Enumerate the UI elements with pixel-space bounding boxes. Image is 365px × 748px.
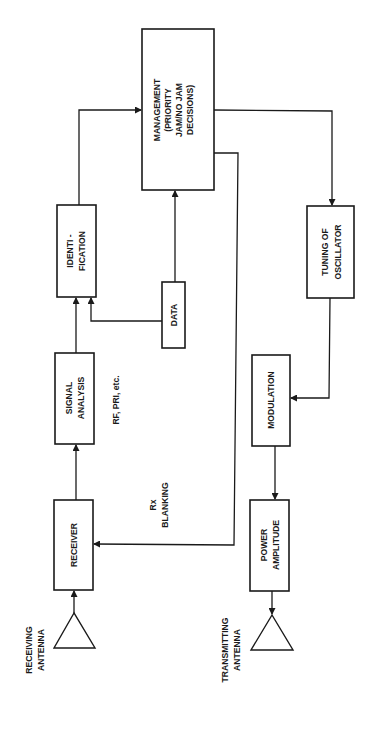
management-line-4: DECISIONS) bbox=[185, 85, 195, 135]
management-line-2: (PRIORITY bbox=[163, 88, 173, 132]
identification-line-2: FICATION bbox=[77, 231, 87, 271]
block-management: MANAGEMENT (PRIORITY JAM/NO JAM DECISION… bbox=[142, 29, 214, 190]
block-receiver: RECEIVER bbox=[54, 500, 93, 590]
signal-analysis-line-2: ANALYSIS bbox=[76, 376, 86, 419]
tuning-line-1: TUNING OF bbox=[320, 228, 330, 275]
identification-line-1: IDENTI - bbox=[65, 234, 75, 268]
transmitting-antenna-text: ANTENNA bbox=[232, 629, 242, 671]
rx-text: Rx bbox=[148, 499, 158, 510]
signal-analysis-line-1: SIGNAL bbox=[64, 382, 74, 414]
tuning-line-2: OSCILLATOR bbox=[333, 224, 343, 280]
block-identification: IDENTI - FICATION bbox=[57, 205, 96, 297]
label-rx-blanking: Rx BLANKING bbox=[148, 482, 170, 528]
receiving-antenna-text: ANTENNA bbox=[36, 629, 46, 671]
receiving-text: RECEIVING bbox=[24, 626, 34, 674]
block-modulation: MODULATION bbox=[252, 355, 290, 446]
connector-management-to-tuning bbox=[214, 110, 332, 205]
receiver-label: RECEIVER bbox=[69, 522, 79, 567]
block-signal-analysis: SIGNAL ANALYSIS bbox=[55, 353, 94, 444]
power-line-2: AMPLITUDE bbox=[271, 520, 281, 570]
modulation-label: MODULATION bbox=[266, 371, 276, 429]
label-receiving-antenna: RECEIVING ANTENNA bbox=[24, 626, 46, 674]
block-tuning-of-oscillator: TUNING OF OSCILLATOR bbox=[307, 206, 354, 298]
label-transmitting-antenna: TRANSMITTING ANTENNA bbox=[220, 617, 242, 682]
transmitting-antenna-icon bbox=[251, 615, 293, 650]
block-data: DATA bbox=[162, 282, 185, 348]
label-rf-pri: RF, PRI, etc. bbox=[111, 375, 121, 424]
rf-pri-text: RF, PRI, etc. bbox=[111, 375, 121, 424]
connector-tuning-to-modulation bbox=[291, 298, 330, 398]
jammer-block-diagram: MANAGEMENT (PRIORITY JAM/NO JAM DECISION… bbox=[0, 0, 365, 748]
block-power-amplitude: POWER AMPLITUDE bbox=[250, 500, 289, 591]
management-line-1: MANAGEMENT bbox=[152, 78, 162, 141]
power-line-1: POWER bbox=[259, 528, 269, 561]
connector-data-to-identification bbox=[91, 298, 162, 321]
transmitting-text: TRANSMITTING bbox=[220, 617, 230, 682]
connector-identification-to-management bbox=[79, 110, 141, 205]
blanking-text: BLANKING bbox=[160, 482, 170, 528]
receiving-antenna-icon bbox=[54, 613, 95, 648]
management-line-3: JAM/NO JAM bbox=[174, 83, 184, 137]
data-label: DATA bbox=[169, 304, 179, 327]
